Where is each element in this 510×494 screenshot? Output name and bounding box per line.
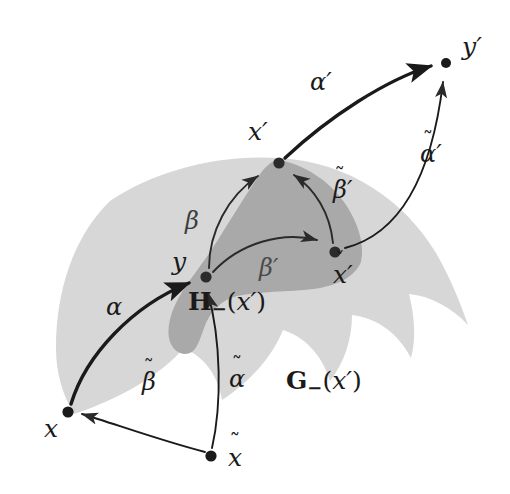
arc-label-beta-prime-base: β bbox=[259, 256, 273, 280]
region-label-H-minus: H−(x′) bbox=[188, 289, 266, 318]
tilde-accent-icon: ˜ bbox=[335, 165, 345, 186]
arc-label-beta-tilde-base: ˜β bbox=[142, 370, 156, 394]
tilde-accent-icon: ˜ bbox=[423, 129, 433, 150]
point-label-x-tilde: ˜x bbox=[228, 445, 242, 470]
arc-label-alpha-tilde-prime-base: ˜α bbox=[420, 142, 436, 166]
point-dot-x-tilde bbox=[205, 450, 216, 461]
prime-glyph: ′ bbox=[273, 254, 278, 282]
point-label-x-tilde-base: ˜x bbox=[228, 445, 242, 470]
region-label-H-paren-close: ) bbox=[256, 287, 266, 316]
prime-glyph: ′ bbox=[476, 32, 482, 61]
point-label-x-check-prime-base: ˇx bbox=[333, 262, 347, 287]
point-label-x-base: x bbox=[44, 414, 58, 443]
point-dot-y bbox=[200, 271, 211, 282]
arc-label-beta-tilde-prime: ˜β′ bbox=[333, 178, 352, 202]
region-label-G-paren-open: ( bbox=[322, 366, 332, 395]
region-label-G-arg: x bbox=[332, 366, 346, 395]
region-label-G-minus: G−(x′) bbox=[286, 368, 362, 397]
region-label-G-letter: G bbox=[286, 366, 307, 395]
region-label-H-subscript: − bbox=[212, 298, 227, 319]
tilde-accent-icon: ˜ bbox=[144, 357, 154, 378]
prime-glyph: ′ bbox=[347, 176, 352, 204]
arc-label-beta-tilde-prime-base: ˜β bbox=[333, 178, 347, 202]
region-label-H-letter: H bbox=[188, 287, 212, 316]
point-label-y-prime-base: y bbox=[462, 34, 476, 59]
arc-label-beta-prime: β′ bbox=[259, 256, 278, 280]
point-label-y-base: y bbox=[172, 247, 186, 276]
region-label-H-arg: x bbox=[236, 287, 250, 316]
prime-glyph: ′ bbox=[436, 140, 441, 168]
point-dot-x-prime bbox=[273, 157, 284, 168]
tilde-accent-icon: ˜ bbox=[232, 354, 242, 375]
point-dot-y-prime bbox=[441, 58, 451, 68]
region-label-G-paren-close: ) bbox=[352, 366, 362, 395]
arc-label-alpha: α bbox=[106, 295, 122, 319]
prime-glyph: ′ bbox=[326, 68, 331, 96]
arc-label-alpha-base: α bbox=[106, 293, 122, 321]
arc-alpha-prime bbox=[285, 66, 431, 158]
point-label-y: y bbox=[172, 249, 186, 274]
diagram-canvas bbox=[0, 0, 510, 494]
arc-label-alpha-prime: α′ bbox=[310, 70, 332, 94]
point-label-y-prime: y′ bbox=[462, 34, 482, 59]
point-label-x-check-prime: ˇx′ bbox=[333, 262, 353, 287]
arc-beta-tilde bbox=[82, 414, 205, 452]
prime-glyph: ′ bbox=[262, 117, 268, 146]
arc-label-beta: β bbox=[185, 209, 199, 233]
arc-label-alpha-tilde-base: ˜α bbox=[229, 367, 245, 391]
arc-label-alpha-tilde: ˜α bbox=[229, 367, 245, 391]
math-diagram-figure: y′ x′ ˇx′ y x ˜x α′ ˜α′ ˜β′ β β′ α ˜α ˜β bbox=[0, 0, 510, 494]
region-label-G-subscript: − bbox=[307, 377, 322, 398]
arc-label-alpha-tilde-prime: ˜α′ bbox=[420, 142, 442, 166]
arc-label-beta-base: β bbox=[185, 207, 199, 235]
caron-accent-icon: ˇ bbox=[335, 250, 345, 270]
arc-label-alpha-prime-base: α bbox=[310, 70, 326, 94]
arc-label-beta-tilde: ˜β bbox=[142, 370, 156, 394]
point-dot-x bbox=[62, 406, 73, 417]
tilde-accent-icon: ˜ bbox=[229, 432, 240, 454]
point-label-x-prime: x′ bbox=[248, 119, 268, 144]
point-label-x-prime-base: x bbox=[248, 119, 262, 144]
prime-glyph: ′ bbox=[347, 260, 353, 289]
point-label-x: x bbox=[44, 416, 58, 441]
